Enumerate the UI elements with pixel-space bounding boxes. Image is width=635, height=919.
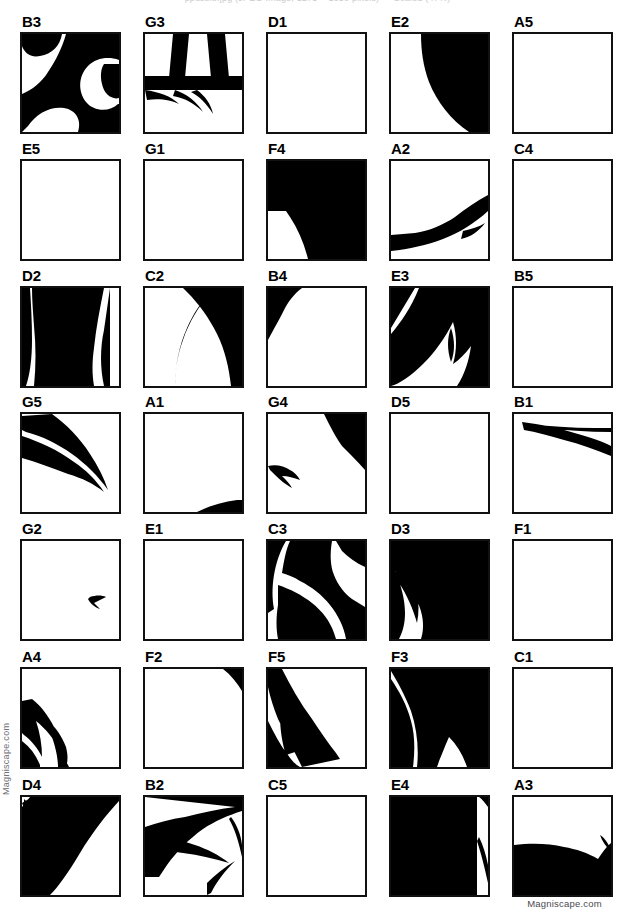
puzzle-tile-b2[interactable]: B2: [143, 777, 242, 897]
tile-artwork: [389, 412, 490, 514]
puzzle-tile-d1[interactable]: D1: [266, 14, 365, 134]
tile-label: D2: [22, 268, 119, 284]
puzzle-tile-a4[interactable]: A4: [20, 649, 119, 769]
puzzle-tile-a3[interactable]: A3: [512, 777, 611, 897]
puzzle-tile-c1[interactable]: C1: [512, 649, 611, 769]
puzzle-tile-grid: B3G3D1E2A5E5G1F4A2C4D2C2B4E3B5G5A1G4D5B1…: [0, 0, 635, 919]
puzzle-tile-g4[interactable]: G4: [266, 394, 365, 514]
tile-label: F3: [391, 649, 488, 665]
puzzle-tile-d5[interactable]: D5: [389, 394, 488, 514]
tile-artwork: [20, 159, 121, 261]
tile-label: D1: [268, 14, 365, 30]
tile-artwork: [143, 159, 244, 261]
tile-label: A3: [514, 777, 611, 793]
tile-artwork: [20, 412, 121, 514]
tile-artwork: [266, 667, 367, 769]
tile-artwork: [266, 795, 367, 897]
tile-label: D4: [22, 777, 119, 793]
puzzle-tile-e4[interactable]: E4: [389, 777, 488, 897]
tile-artwork: [389, 539, 490, 641]
puzzle-tile-d2[interactable]: D2: [20, 268, 119, 388]
tile-artwork: [20, 286, 121, 388]
tile-label: B2: [145, 777, 242, 793]
puzzle-tile-b4[interactable]: B4: [266, 268, 365, 388]
tile-artwork: [20, 795, 121, 897]
tile-label: G4: [268, 394, 365, 410]
tile-label: A4: [22, 649, 119, 665]
puzzle-tile-b1[interactable]: B1: [512, 394, 611, 514]
tile-artwork: [389, 159, 490, 261]
tile-label: F4: [268, 141, 365, 157]
puzzle-tile-g1[interactable]: G1: [143, 141, 242, 261]
puzzle-tile-e5[interactable]: E5: [20, 141, 119, 261]
tile-label: E3: [391, 268, 488, 284]
tile-label: G2: [22, 521, 119, 537]
puzzle-tile-f2[interactable]: F2: [143, 649, 242, 769]
tile-artwork: [512, 667, 613, 769]
puzzle-tile-d3[interactable]: D3: [389, 521, 488, 641]
puzzle-tile-a5[interactable]: A5: [512, 14, 611, 134]
watermark-bottom-right: Magniscape.com: [514, 898, 615, 909]
tile-artwork: [143, 795, 244, 897]
puzzle-tile-b3[interactable]: B3: [20, 14, 119, 134]
tile-label: C5: [268, 777, 365, 793]
puzzle-tile-f3[interactable]: F3: [389, 649, 488, 769]
tile-artwork: [266, 412, 367, 514]
puzzle-tile-d4[interactable]: D4: [20, 777, 119, 897]
tile-label: F1: [514, 521, 611, 537]
puzzle-tile-b5[interactable]: B5: [512, 268, 611, 388]
puzzle-tile-g3[interactable]: G3: [143, 14, 242, 134]
tile-label: E2: [391, 14, 488, 30]
puzzle-tile-a1[interactable]: A1: [143, 394, 242, 514]
puzzle-tile-g5[interactable]: G5: [20, 394, 119, 514]
puzzle-tile-c5[interactable]: C5: [266, 777, 365, 897]
tile-artwork: [512, 795, 613, 897]
tile-artwork: [389, 32, 490, 134]
tile-label: C1: [514, 649, 611, 665]
tile-artwork: [512, 539, 613, 641]
tile-artwork: [389, 795, 490, 897]
tile-artwork: [143, 32, 244, 134]
tile-label: A2: [391, 141, 488, 157]
tile-artwork: [389, 286, 490, 388]
puzzle-tile-f4[interactable]: F4: [266, 141, 365, 261]
puzzle-tile-c2[interactable]: C2: [143, 268, 242, 388]
tile-label: A5: [514, 14, 611, 30]
tile-label: C2: [145, 268, 242, 284]
tile-label: E5: [22, 141, 119, 157]
tile-label: B5: [514, 268, 611, 284]
tile-label: C4: [514, 141, 611, 157]
tile-artwork: [143, 286, 244, 388]
tile-label: G1: [145, 141, 242, 157]
puzzle-tile-c4[interactable]: C4: [512, 141, 611, 261]
tile-artwork: [266, 539, 367, 641]
puzzle-tile-e3[interactable]: E3: [389, 268, 488, 388]
tile-label: D3: [391, 521, 488, 537]
tile-label: G5: [22, 394, 119, 410]
tile-artwork: [266, 159, 367, 261]
tile-label: F5: [268, 649, 365, 665]
tile-artwork: [389, 667, 490, 769]
tile-label: B1: [514, 394, 611, 410]
tile-artwork: [266, 32, 367, 134]
tile-label: G3: [145, 14, 242, 30]
puzzle-tile-c3[interactable]: C3: [266, 521, 365, 641]
tile-label: A1: [145, 394, 242, 410]
tile-artwork: [143, 539, 244, 641]
tile-label: B3: [22, 14, 119, 30]
puzzle-tile-e2[interactable]: E2: [389, 14, 488, 134]
tile-label: B4: [268, 268, 365, 284]
tile-artwork: [20, 539, 121, 641]
puzzle-tile-g2[interactable]: G2: [20, 521, 119, 641]
tile-artwork: [20, 667, 121, 769]
puzzle-tile-e1[interactable]: E1: [143, 521, 242, 641]
tile-artwork: [143, 412, 244, 514]
puzzle-tile-f1[interactable]: F1: [512, 521, 611, 641]
puzzle-tile-a2[interactable]: A2: [389, 141, 488, 261]
puzzle-tile-f5[interactable]: F5: [266, 649, 365, 769]
tile-label: E4: [391, 777, 488, 793]
tile-label: D5: [391, 394, 488, 410]
tile-label: F2: [145, 649, 242, 665]
tile-label: C3: [268, 521, 365, 537]
tile-artwork: [266, 286, 367, 388]
